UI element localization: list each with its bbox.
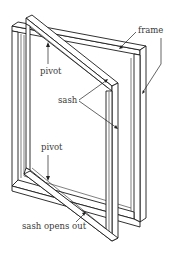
window-illustration: [0, 0, 173, 255]
pivot-window-diagram: frame pivot sash pivot sash opens out: [0, 0, 173, 255]
pivot-bottom-label: pivot: [41, 143, 63, 152]
sash-label: sash: [58, 96, 77, 105]
pivot-top-label: pivot: [40, 67, 62, 76]
frame-label: frame: [138, 26, 163, 35]
sash-opens-out-label: sash opens out: [22, 222, 86, 231]
